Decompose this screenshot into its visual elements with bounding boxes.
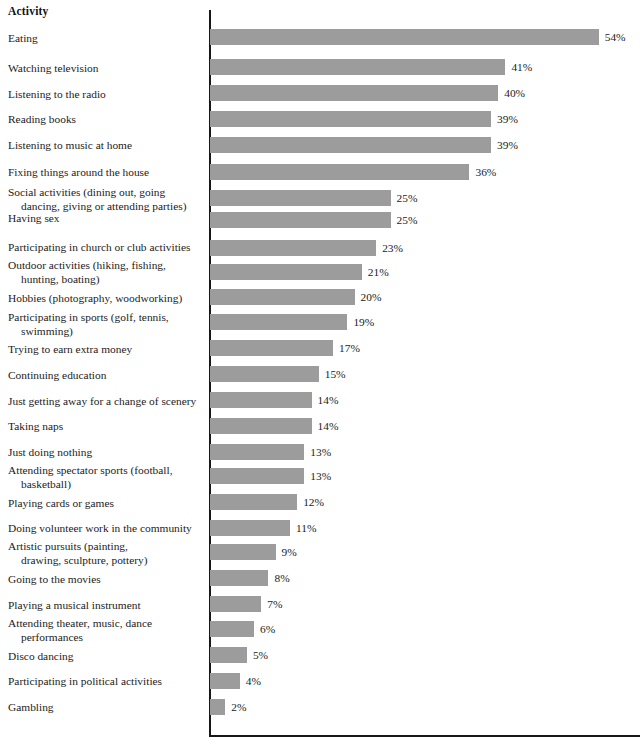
bar [210, 289, 355, 305]
activity-label-line: basketball) [8, 478, 204, 492]
bar [210, 190, 391, 206]
bar-track: 13% [210, 444, 364, 460]
activity-label: Disco dancing [8, 650, 204, 664]
activity-label: Watching television [8, 62, 204, 76]
bar-track: 25% [210, 190, 451, 206]
activity-label-line: Artistic pursuits (painting, [8, 540, 204, 554]
bar-track: 8% [210, 570, 328, 586]
activity-label-line: Hobbies (photography, woodworking) [8, 292, 204, 306]
activity-label-line: hunting, boating) [8, 273, 204, 287]
bar-track: 9% [210, 544, 336, 560]
activity-label-line: swimming) [8, 325, 204, 339]
activity-label: Participating in political activities [8, 675, 204, 689]
bar-value-label: 36% [469, 166, 496, 178]
bar-value-label: 7% [261, 598, 282, 610]
activity-label-line: Gambling [8, 701, 204, 715]
activity-label: Fixing things around the house [8, 166, 204, 180]
bar-track: 39% [210, 137, 551, 153]
activity-label: Playing cards or games [8, 497, 204, 511]
bar-value-label: 12% [297, 496, 324, 508]
bar-track: 13% [210, 468, 364, 484]
activity-label-line: Attending theater, music, dance [8, 617, 204, 631]
bar-value-label: 19% [347, 316, 374, 328]
activity-label-line: Watching television [8, 62, 204, 76]
bar [210, 699, 225, 715]
activity-label-line: Social activities (dining out, going [8, 186, 204, 200]
activity-label: Eating [8, 32, 204, 46]
bar-value-label: 13% [304, 470, 331, 482]
column-header-activity: Activity [8, 5, 49, 17]
activity-label-line: Listening to the radio [8, 88, 204, 102]
bar-track: 54% [210, 29, 640, 45]
activity-label: Participating in sports (golf, tennis,sw… [8, 311, 204, 338]
activity-label-line: Participating in political activities [8, 675, 204, 689]
bar-track: 20% [210, 289, 415, 305]
bar [210, 596, 261, 612]
activity-label-line: Having sex [8, 212, 204, 226]
bar [210, 212, 391, 228]
bar-track: 11% [210, 520, 350, 536]
bar-track: 21% [210, 264, 422, 280]
activity-label: Going to the movies [8, 573, 204, 587]
bar [210, 392, 312, 408]
activity-label: Attending spectator sports (football,bas… [8, 464, 204, 491]
bar-track: 2% [210, 699, 285, 715]
activity-label-line: Playing a musical instrument [8, 599, 204, 613]
bar-value-label: 11% [290, 522, 316, 534]
bar-track: 19% [210, 314, 407, 330]
bar [210, 111, 491, 127]
activity-label-line: Participating in sports (golf, tennis, [8, 311, 204, 325]
bar [210, 673, 240, 689]
bar [210, 340, 333, 356]
bar-value-label: 20% [355, 291, 382, 303]
activity-label: Continuing education [8, 369, 204, 383]
bar [210, 570, 268, 586]
bar-value-label: 25% [391, 192, 418, 204]
bar-value-label: 14% [312, 420, 339, 432]
activity-label-line: Just getting away for a change of scener… [8, 395, 204, 409]
bar-track: 40% [210, 85, 558, 101]
activity-label: Reading books [8, 113, 204, 127]
activity-label: Listening to music at home [8, 139, 204, 153]
bar-value-label: 14% [312, 394, 339, 406]
bar [210, 366, 319, 382]
activity-label-line: Continuing education [8, 369, 204, 383]
bar-value-label: 5% [247, 649, 268, 661]
bar-track: 36% [210, 164, 529, 180]
activity-label: Attending theater, music, danceperforman… [8, 617, 204, 644]
bar-value-label: 21% [362, 266, 389, 278]
activity-label: Having sex [8, 212, 204, 226]
bar-value-label: 41% [505, 61, 532, 73]
x-axis-line [209, 735, 640, 737]
activity-label-line: Outdoor activities (hiking, fishing, [8, 259, 204, 273]
activity-label: Outdoor activities (hiking, fishing,hunt… [8, 259, 204, 286]
bar-track: 39% [210, 111, 551, 127]
activity-label: Playing a musical instrument [8, 599, 204, 613]
bar [210, 544, 276, 560]
activity-label: Participating in church or club activiti… [8, 241, 204, 255]
activity-label-line: Trying to earn extra money [8, 343, 204, 357]
bar-value-label: 23% [376, 242, 403, 254]
bar [210, 137, 491, 153]
bar [210, 314, 347, 330]
activity-label-line: Just doing nothing [8, 446, 204, 460]
activity-label: Taking naps [8, 420, 204, 434]
activity-label-line: performances [8, 631, 204, 645]
bar [210, 240, 376, 256]
activity-label-line: Participating in church or club activiti… [8, 241, 204, 255]
bar [210, 520, 290, 536]
bar [210, 264, 362, 280]
bar-track: 14% [210, 392, 372, 408]
bar-track: 6% [210, 621, 314, 637]
activity-label: Just getting away for a change of scener… [8, 395, 204, 409]
bar-track: 5% [210, 647, 307, 663]
activity-label-line: Eating [8, 32, 204, 46]
bar-value-label: 25% [391, 214, 418, 226]
bar-value-label: 8% [268, 572, 289, 584]
activity-label: Listening to the radio [8, 88, 204, 102]
bar [210, 494, 297, 510]
activity-label: Trying to earn extra money [8, 343, 204, 357]
activity-label: Doing volunteer work in the community [8, 522, 204, 536]
activity-label-line: Going to the movies [8, 573, 204, 587]
bar-value-label: 13% [304, 446, 331, 458]
